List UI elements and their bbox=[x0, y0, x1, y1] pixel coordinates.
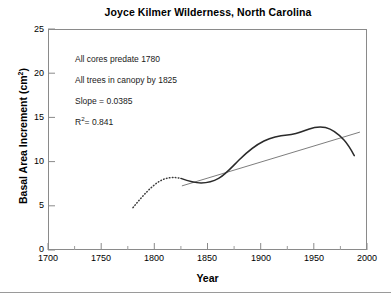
y-tick-label-5: 5 bbox=[18, 201, 44, 210]
annotation-r-squared: R2= 0.841 bbox=[75, 117, 113, 127]
x-tick-label-1800: 1800 bbox=[134, 254, 174, 263]
figure-container: Joyce Kilmer Wilderness, North Carolina … bbox=[0, 0, 391, 301]
x-tick-label-1950: 1950 bbox=[294, 254, 334, 263]
y-tick-label-20: 20 bbox=[18, 69, 44, 78]
x-tick-label-1850: 1850 bbox=[187, 254, 227, 263]
chart-title: Joyce Kilmer Wilderness, North Carolina bbox=[48, 6, 368, 18]
x-tick-label-1900: 1900 bbox=[241, 254, 281, 263]
x-tick-label-1750: 1750 bbox=[81, 254, 121, 263]
x-axis-label: Year bbox=[48, 272, 367, 284]
y-axis-label: Basal Area Increment (cm2) bbox=[17, 21, 29, 251]
x-tick-label-1700: 1700 bbox=[28, 254, 68, 263]
footer-divider bbox=[0, 292, 391, 293]
annotation-trees-canopy: All trees in canopy by 1825 bbox=[75, 75, 177, 85]
y-tick-label-15: 15 bbox=[18, 113, 44, 122]
y-axis-label-main: Basal Area Increment (cm bbox=[17, 75, 29, 204]
annotation-slope: Slope = 0.0385 bbox=[75, 96, 132, 106]
annotation-cores-predate: All cores predate 1780 bbox=[75, 54, 160, 64]
x-tick-label-2000: 2000 bbox=[347, 254, 387, 263]
annotation-r-value: = 0.841 bbox=[85, 117, 114, 127]
y-tick-label-10: 10 bbox=[18, 157, 44, 166]
y-tick-label-25: 25 bbox=[18, 25, 44, 34]
